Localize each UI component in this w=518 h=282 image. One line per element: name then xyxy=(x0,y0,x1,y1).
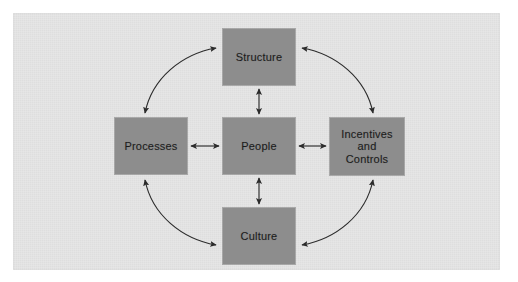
node-processes[interactable]: Processes xyxy=(115,118,187,174)
connector-culture-incentives xyxy=(302,180,373,245)
figure-root: Structure Processes People Incentives an… xyxy=(0,0,518,282)
connector-processes-structure xyxy=(145,48,216,113)
node-structure-label: Structure xyxy=(236,51,282,64)
node-processes-label: Processes xyxy=(124,140,177,153)
connector-processes-culture xyxy=(145,180,216,245)
node-incentives-and-controls[interactable]: Incentives and Controls xyxy=(330,118,404,175)
node-people[interactable]: People xyxy=(223,118,295,174)
node-people-label: People xyxy=(241,140,276,153)
node-incentives-and-controls-label: Incentives and Controls xyxy=(341,128,393,166)
connector-structure-incentives xyxy=(302,48,373,113)
node-structure[interactable]: Structure xyxy=(223,29,295,85)
node-culture[interactable]: Culture xyxy=(223,208,295,264)
node-culture-label: Culture xyxy=(241,230,278,243)
